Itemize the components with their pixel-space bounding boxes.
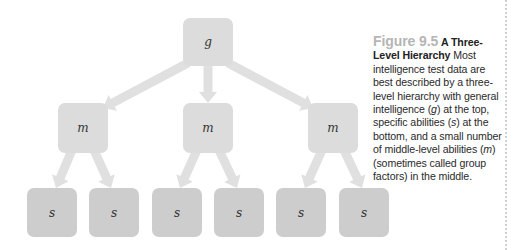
figure-number: Figure 9.5 bbox=[373, 33, 438, 49]
dotted-margin-rule bbox=[505, 0, 507, 250]
node-specific-s: s bbox=[152, 188, 202, 237]
figure-caption: Figure 9.5 A Three-Level Hierarchy Most … bbox=[373, 35, 503, 183]
node-general-g-label: g bbox=[204, 35, 212, 49]
node-specific-s: s bbox=[89, 188, 139, 237]
caption-text-part: m bbox=[483, 143, 492, 155]
node-specific-s-label: s bbox=[111, 206, 117, 220]
arrow-icon bbox=[199, 66, 217, 103]
node-specific-s: s bbox=[276, 188, 326, 237]
node-middle-m: m bbox=[308, 103, 358, 153]
arrow-icon bbox=[226, 59, 313, 111]
arrow-icon bbox=[176, 148, 201, 188]
node-specific-s-label: s bbox=[236, 206, 242, 220]
node-specific-s-label: s bbox=[174, 206, 180, 220]
arrow-icon bbox=[215, 148, 240, 188]
nodes-layer: gmmmssssss bbox=[27, 18, 389, 237]
node-specific-s: s bbox=[27, 188, 77, 237]
node-general-g: g bbox=[183, 18, 233, 66]
node-middle-m-label: m bbox=[327, 121, 338, 135]
node-specific-s-label: s bbox=[298, 206, 304, 220]
node-specific-s: s bbox=[214, 188, 264, 237]
node-middle-m-label: m bbox=[202, 121, 213, 135]
arrow-icon bbox=[52, 148, 76, 188]
node-specific-s: s bbox=[339, 188, 389, 237]
arrow-icon bbox=[103, 59, 190, 111]
arrow-icon bbox=[340, 148, 365, 188]
node-specific-s-label: s bbox=[49, 206, 55, 220]
node-specific-s-label: s bbox=[361, 206, 367, 220]
node-middle-m-label: m bbox=[77, 121, 88, 135]
node-middle-m: m bbox=[58, 103, 108, 153]
node-middle-m: m bbox=[183, 103, 233, 153]
arrow-icon bbox=[301, 148, 326, 188]
arrow-icon bbox=[90, 148, 115, 188]
caption-body: Most intelligence test data are best des… bbox=[373, 49, 502, 182]
